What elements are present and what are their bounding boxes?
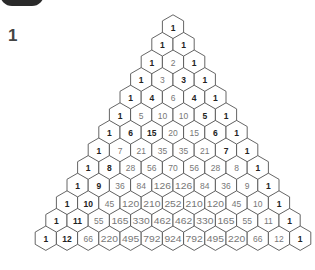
svg-text:210: 210 <box>143 199 161 209</box>
svg-text:1: 1 <box>43 234 48 244</box>
svg-text:7: 7 <box>118 146 123 156</box>
svg-text:1: 1 <box>234 128 239 138</box>
svg-text:1: 1 <box>75 181 80 191</box>
svg-text:252: 252 <box>164 199 182 209</box>
svg-text:10: 10 <box>179 111 189 121</box>
svg-text:220: 220 <box>228 234 246 244</box>
svg-text:120: 120 <box>122 199 140 209</box>
svg-text:1: 1 <box>266 181 271 191</box>
svg-text:8: 8 <box>234 163 239 173</box>
svg-text:10: 10 <box>158 111 168 121</box>
svg-text:1: 1 <box>65 199 70 209</box>
svg-text:56: 56 <box>189 163 199 173</box>
svg-text:11: 11 <box>73 216 82 226</box>
svg-text:495: 495 <box>207 234 225 244</box>
svg-text:8: 8 <box>107 163 112 173</box>
svg-text:56: 56 <box>147 163 157 173</box>
svg-text:210: 210 <box>186 199 204 209</box>
svg-text:10: 10 <box>253 199 263 209</box>
svg-text:1: 1 <box>245 146 250 156</box>
svg-text:7: 7 <box>224 146 229 156</box>
svg-text:12: 12 <box>62 234 72 244</box>
svg-text:15: 15 <box>147 128 157 138</box>
svg-text:28: 28 <box>126 163 136 173</box>
svg-text:1: 1 <box>107 128 112 138</box>
svg-text:120: 120 <box>207 199 225 209</box>
svg-text:84: 84 <box>200 181 210 191</box>
svg-text:1: 1 <box>213 93 218 103</box>
svg-text:66: 66 <box>253 234 263 244</box>
svg-text:84: 84 <box>136 181 146 191</box>
svg-text:330: 330 <box>133 216 151 226</box>
svg-text:36: 36 <box>221 181 231 191</box>
svg-text:1: 1 <box>287 216 292 226</box>
svg-text:70: 70 <box>168 163 178 173</box>
svg-text:2: 2 <box>171 58 176 68</box>
svg-text:36: 36 <box>115 181 125 191</box>
svg-text:45: 45 <box>232 199 242 209</box>
svg-text:35: 35 <box>158 146 168 156</box>
svg-text:165: 165 <box>111 216 129 226</box>
svg-text:6: 6 <box>128 128 133 138</box>
svg-text:1: 1 <box>277 199 282 209</box>
svg-text:21: 21 <box>136 146 146 156</box>
svg-text:165: 165 <box>217 216 235 226</box>
svg-text:1: 1 <box>181 40 186 50</box>
svg-text:126: 126 <box>175 181 193 191</box>
svg-text:5: 5 <box>202 111 207 121</box>
svg-text:1: 1 <box>192 58 197 68</box>
svg-text:6: 6 <box>171 93 176 103</box>
svg-text:1: 1 <box>54 216 59 226</box>
svg-text:9: 9 <box>96 181 101 191</box>
svg-text:1: 1 <box>202 75 207 85</box>
svg-text:21: 21 <box>200 146 210 156</box>
svg-text:66: 66 <box>83 234 93 244</box>
svg-text:1: 1 <box>224 111 229 121</box>
svg-text:35: 35 <box>179 146 189 156</box>
svg-text:1: 1 <box>149 58 154 68</box>
svg-text:1: 1 <box>86 163 91 173</box>
svg-text:1: 1 <box>118 111 123 121</box>
svg-text:1: 1 <box>298 234 303 244</box>
svg-text:792: 792 <box>186 234 204 244</box>
svg-text:1: 1 <box>160 40 165 50</box>
svg-text:5: 5 <box>139 111 144 121</box>
svg-text:55: 55 <box>94 216 104 226</box>
svg-text:45: 45 <box>105 199 115 209</box>
svg-text:12: 12 <box>274 234 284 244</box>
svg-text:220: 220 <box>101 234 119 244</box>
svg-text:792: 792 <box>143 234 161 244</box>
svg-text:11: 11 <box>264 216 273 226</box>
svg-text:9: 9 <box>245 181 250 191</box>
svg-text:28: 28 <box>211 163 221 173</box>
svg-text:1: 1 <box>139 75 144 85</box>
svg-text:1: 1 <box>128 93 133 103</box>
svg-text:6: 6 <box>213 128 218 138</box>
pascal-triangle: 1111211331146411510105116152015611721353… <box>0 0 315 270</box>
svg-text:15: 15 <box>189 128 199 138</box>
svg-text:462: 462 <box>154 216 172 226</box>
svg-text:20: 20 <box>168 128 178 138</box>
svg-text:924: 924 <box>164 234 182 244</box>
svg-text:1: 1 <box>96 146 101 156</box>
svg-text:4: 4 <box>149 93 154 103</box>
svg-text:4: 4 <box>192 93 197 103</box>
svg-text:55: 55 <box>242 216 252 226</box>
svg-text:126: 126 <box>154 181 172 191</box>
svg-text:3: 3 <box>181 75 186 85</box>
svg-text:1: 1 <box>171 23 176 33</box>
svg-text:330: 330 <box>196 216 214 226</box>
svg-text:495: 495 <box>122 234 140 244</box>
svg-text:1: 1 <box>255 163 260 173</box>
svg-text:10: 10 <box>83 199 93 209</box>
svg-text:462: 462 <box>175 216 193 226</box>
svg-text:3: 3 <box>160 75 165 85</box>
